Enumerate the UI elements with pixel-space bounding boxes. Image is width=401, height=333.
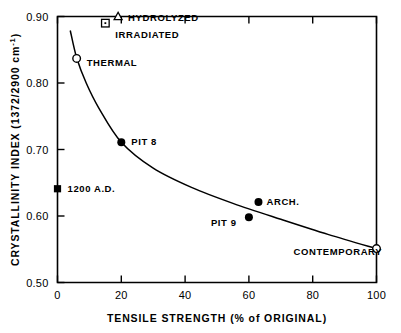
x-tick-label-60: 60 (243, 289, 256, 301)
x-tick-label-20: 20 (115, 289, 128, 301)
open-square-center-dot-icon (104, 22, 106, 24)
x-tick-label-40: 40 (179, 289, 192, 301)
filled-circle-marker-icon[interactable] (245, 213, 253, 221)
x-axis-tick-labels: 020406080100 (54, 289, 386, 301)
data-point-thermal[interactable] (73, 55, 81, 63)
filled-square-marker-icon[interactable] (54, 185, 61, 192)
filled-circle-marker-icon[interactable] (117, 138, 125, 146)
y-tick-label-0.70: 0.70 (26, 144, 48, 156)
axes-frame (58, 17, 377, 283)
figure-container: 020406080100 0.500.600.700.800.90 HYDROL… (0, 0, 401, 333)
plot-frame (58, 17, 377, 283)
open-circle-marker-icon[interactable] (73, 55, 81, 63)
x-tick-label-0: 0 (54, 289, 60, 301)
axis-titles: TENSILE STRENGTH (% of ORIGINAL)CRYSTALL… (8, 33, 327, 324)
y-tick-label-0.50: 0.50 (26, 277, 48, 289)
y-tick-label-0.90: 0.90 (26, 11, 48, 23)
data-point-pit-9[interactable] (245, 213, 253, 221)
data-label-contemporary: CONTEMPORARY (294, 246, 383, 257)
y-tick-label-0.80: 0.80 (26, 77, 48, 89)
x-tick-label-100: 100 (367, 289, 386, 301)
data-point-pit-8[interactable] (117, 138, 125, 146)
x-axis-title: TENSILE STRENGTH (% of ORIGINAL) (107, 312, 327, 324)
y-axis-ticks (58, 17, 65, 283)
data-label-thermal: THERMAL (87, 57, 138, 68)
y-axis-tick-labels: 0.500.600.700.800.90 (26, 11, 48, 289)
data-label-pit-9: PIT 9 (211, 217, 237, 228)
y-axis-title: CRYSTALLINITY INDEX (1372/2900 cm-1) (8, 33, 21, 266)
data-point-irradiated[interactable] (102, 19, 110, 27)
data-point-arch[interactable] (254, 198, 262, 206)
data-label-pit-8: PIT 8 (131, 136, 157, 147)
x-tick-label-80: 80 (306, 289, 319, 301)
crystallinity-index-scatter-chart: 020406080100 0.500.600.700.800.90 HYDROL… (0, 0, 401, 333)
data-label-arch: ARCH. (266, 196, 299, 207)
filled-circle-marker-icon[interactable] (254, 198, 262, 206)
data-label-1200-a-d: 1200 A.D. (68, 183, 116, 194)
y-tick-label-0.60: 0.60 (26, 210, 48, 222)
data-label-hydrolyzed: HYDROLYZED (128, 12, 199, 23)
data-point-1200-a-d[interactable] (54, 185, 61, 192)
data-label-irradiated: IRRADIATED (115, 29, 179, 40)
x-axis-ticks (58, 17, 377, 283)
